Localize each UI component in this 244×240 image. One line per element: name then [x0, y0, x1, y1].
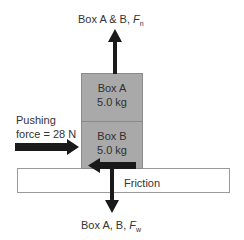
normal-force-label-text: Box A & B, — [78, 13, 133, 25]
normal-force-label: Box A & B, Fn — [78, 13, 144, 30]
weight-force-label-text: Box A, B, — [81, 219, 129, 231]
pushing-force-arrow-icon — [15, 139, 79, 155]
pushing-force-label: Pushing force = 28 N — [16, 113, 76, 141]
normal-force-subscript: n — [140, 20, 144, 27]
normal-force-symbol: F — [133, 13, 140, 25]
weight-force-label: Box A, B, Fw — [81, 219, 141, 236]
weight-force-subscript: w — [136, 226, 141, 233]
pushing-force-line2: force = 28 N — [16, 127, 76, 141]
weight-force-arrow-icon — [105, 166, 119, 213]
pushing-force-line1: Pushing — [16, 113, 76, 127]
normal-force-arrow-icon — [108, 29, 122, 74]
